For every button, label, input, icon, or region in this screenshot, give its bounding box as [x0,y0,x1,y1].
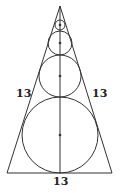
right-side-length-label: 13 [92,88,107,99]
circle-center-dot-medium [59,75,62,78]
circle-center-dot-smallest [59,24,62,27]
circle-center-dot-large [59,134,62,137]
base-length-label: 13 [53,176,68,187]
circle-center-dot-small [59,42,62,45]
left-side-length-label: 13 [16,88,31,99]
